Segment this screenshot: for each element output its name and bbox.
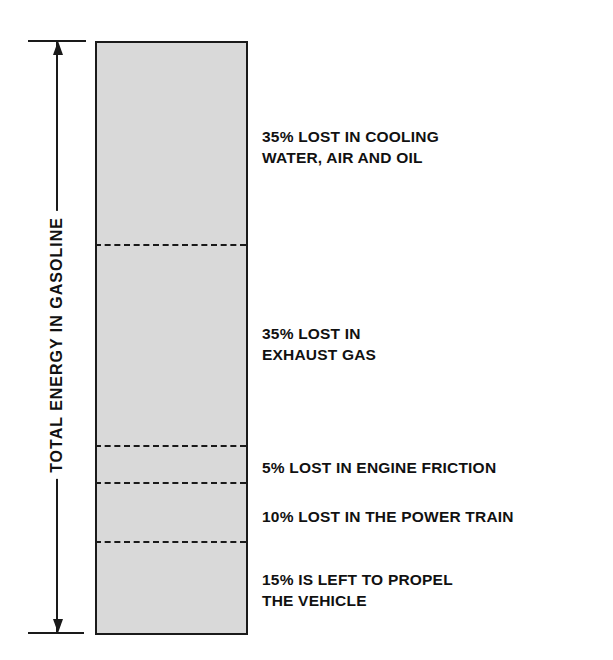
segment-label-friction: 5% LOST IN ENGINE FRICTION [262, 457, 496, 478]
segment-label-propel: 15% IS LEFT TO PROPEL THE VEHICLE [262, 569, 453, 611]
energy-bar [95, 41, 248, 635]
divider-friction-powertrain [95, 482, 246, 484]
arrow-up-icon [51, 41, 65, 57]
divider-exhaust-friction [95, 445, 246, 447]
divider-powertrain-propel [95, 541, 246, 543]
total-energy-label: TOTAL ENERGY IN GASOLINE [48, 211, 66, 479]
divider-cooling-exhaust [95, 244, 246, 246]
arrow-down-icon [51, 617, 65, 633]
segment-label-powertrain: 10% LOST IN THE POWER TRAIN [262, 506, 514, 527]
segment-label-cooling: 35% LOST IN COOLING WATER, AIR AND OIL [262, 126, 439, 168]
segment-label-exhaust: 35% LOST IN EXHAUST GAS [262, 323, 376, 365]
